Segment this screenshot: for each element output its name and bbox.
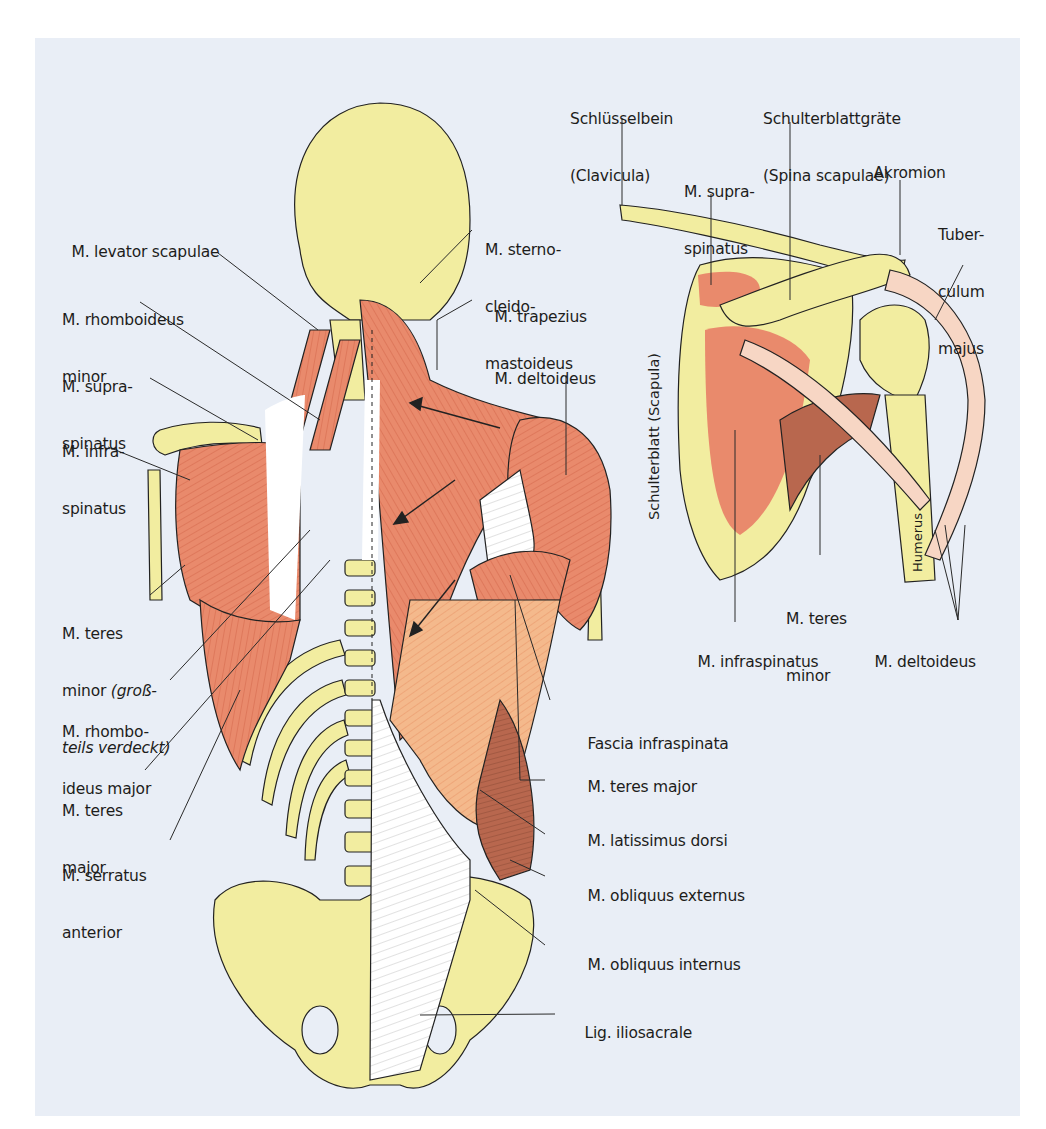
skull (295, 103, 470, 320)
label-line: M. teres (62, 625, 170, 644)
label-text: M. infraspinatus (697, 653, 818, 671)
label-levator-scapulae: M. levator scapulae (62, 224, 219, 262)
label-text: M. obliquus internus (587, 956, 740, 974)
label-text: Fascia infraspinata (587, 735, 728, 753)
label-supraspinatus-right: M. supra- spinatus (684, 145, 755, 278)
label-akromion: Akromion (864, 145, 946, 183)
label-line: Schlüsselbein (570, 110, 673, 129)
label-line: M. rhomboideus (62, 311, 184, 330)
label-humerus-vertical: Humerus (910, 513, 925, 572)
label-text: M. teres major (587, 778, 696, 796)
label-text: M. trapezius (494, 308, 587, 326)
label-text: Lig. iliosacrale (584, 1024, 692, 1042)
label-line: spinatus (62, 500, 126, 519)
label-serratus-anterior: M. serratus anterior (62, 829, 147, 962)
label-line: spinatus (684, 240, 755, 259)
label-line: M. sterno- (485, 241, 573, 260)
label-line: M. teres (786, 610, 847, 629)
label-lig-iliosacrale: Lig. iliosacrale (575, 1005, 692, 1043)
label-line: M. infra- (62, 443, 126, 462)
label-latissimus-dorsi: M. latissimus dorsi (578, 813, 728, 851)
label-deltoideus: M. deltoideus (485, 351, 596, 389)
label-text: M. latissimus dorsi (587, 832, 727, 850)
label-fascia-infraspinata: Fascia infraspinata (578, 716, 729, 754)
label-text: M. deltoideus (494, 370, 595, 388)
label-line: majus (938, 340, 985, 359)
label-text: M. deltoideus (874, 653, 975, 671)
label-infraspinatus: M. infra- spinatus (62, 405, 126, 538)
label-line: (Clavicula) (570, 167, 673, 186)
label-infraspinatus-right: M. infraspinatus (688, 634, 818, 672)
label-line: Tuber- (938, 226, 985, 245)
label-obliquus-internus: M. obliquus internus (578, 937, 741, 975)
label-teres-major-right: M. teres major (578, 759, 697, 797)
label-clavicula: Schlüsselbein (Clavicula) (570, 72, 673, 205)
label-obliquus-externus: M. obliquus externus (578, 868, 745, 906)
label-text: Akromion (873, 164, 945, 182)
label-text: M. obliquus externus (587, 887, 745, 905)
label-line: M. supra- (62, 378, 133, 397)
shoulder-figure (620, 205, 985, 582)
label-line: M. teres (62, 802, 123, 821)
label-text: M. levator scapulae (71, 243, 219, 261)
label-line: M. rhombo- (62, 723, 151, 742)
label-trapezius: M. trapezius (485, 289, 587, 327)
label-deltoideus-right: M. deltoideus (865, 634, 976, 672)
label-line: culum (938, 283, 985, 302)
label-line: anterior (62, 924, 147, 943)
label-line: M. supra- (684, 183, 755, 202)
label-tuberculum-majus: Tuber- culum majus (938, 188, 985, 378)
label-line: M. serratus (62, 867, 147, 886)
label-line: Schulterblattgräte (763, 110, 901, 129)
label-spina-scapulae: Schulterblattgräte (Spina scapulae) (763, 72, 901, 205)
label-scapula-vertical: Schulterblatt (Scapula) (646, 353, 662, 520)
